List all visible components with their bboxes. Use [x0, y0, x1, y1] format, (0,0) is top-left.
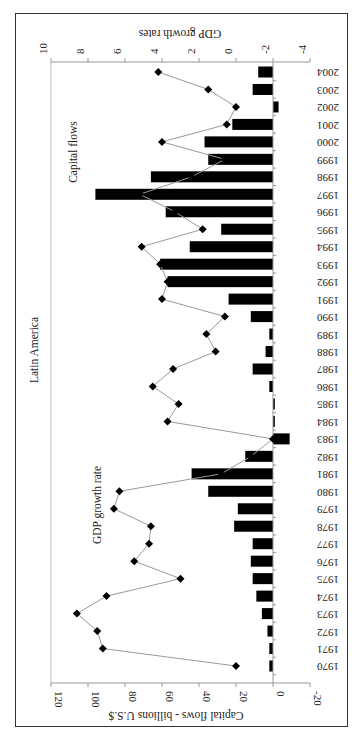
left-axis-tick-label: 100: [90, 691, 102, 708]
year-label: 1985: [317, 399, 340, 411]
capital-flow-bar: [269, 661, 273, 672]
capital-flow-bar: [205, 136, 273, 147]
year-label: 1983: [317, 434, 340, 446]
year-label: 2004: [317, 67, 340, 79]
gdp-diamond-marker: [103, 592, 111, 600]
capital-flow-bar: [269, 329, 273, 340]
gdp-diamond-marker: [223, 120, 231, 128]
gdp-diamond-marker: [158, 295, 166, 303]
year-label: 1971: [317, 644, 339, 656]
year-label: 1978: [317, 522, 340, 534]
annotation-gdp-growth: GDP growth rate: [91, 466, 104, 544]
year-label: 1977: [317, 539, 340, 551]
left-axis-title: Capital flows - billions U.S.$: [108, 709, 243, 722]
year-label: 1991: [317, 295, 339, 307]
right-axis-title: GDP growth rates: [138, 27, 221, 40]
year-label: 1986: [317, 382, 340, 394]
capital-flow-bar: [232, 119, 273, 130]
right-axis-tick-label: 4: [148, 48, 160, 54]
year-label: 1998: [317, 172, 340, 184]
year-label: 1996: [317, 207, 340, 219]
year-label: 1972: [317, 627, 339, 639]
capital-flow-bar: [95, 189, 273, 200]
capital-flow-bar: [273, 101, 279, 112]
left-axis-tick-label: 60: [164, 691, 176, 703]
right-axis-tick-label: 10: [37, 43, 49, 55]
capital-flow-bar: [269, 381, 273, 392]
capital-flow-bar: [168, 276, 273, 287]
capital-flow-bar: [221, 224, 273, 235]
capital-flow-bar: [234, 521, 273, 532]
left-axis-tick-label: 120: [53, 691, 65, 708]
capital-flow-bar: [192, 468, 273, 479]
tick-labels: 120100806040200-201086420-2-419701971197…: [37, 43, 339, 709]
year-label: 1979: [317, 504, 340, 516]
gdp-diamond-marker: [204, 85, 212, 93]
year-label: 2001: [317, 120, 339, 132]
capital-flow-bar: [238, 503, 273, 514]
capital-flow-bar: [258, 67, 273, 78]
year-label: 1994: [317, 242, 340, 254]
capital-flows-bars: [95, 67, 289, 672]
capital-flow-bar: [160, 259, 273, 270]
right-axis-tick-label: 6: [111, 48, 123, 54]
year-label: 2000: [317, 137, 340, 149]
gdp-diamond-marker: [99, 645, 107, 653]
gdp-diamond-marker: [154, 68, 162, 76]
capital-flow-bar: [251, 556, 273, 567]
left-axis-tick-label: 80: [127, 691, 139, 703]
year-label: 1980: [317, 487, 340, 499]
gdp-diamond-marker: [158, 138, 166, 146]
gdp-diamond-marker: [175, 400, 183, 408]
right-axis-tick-label: 8: [74, 48, 86, 54]
capital-flow-bar: [253, 84, 273, 95]
gdp-diamond-marker: [115, 487, 123, 495]
year-label: 1992: [317, 277, 339, 289]
year-label: 2003: [317, 85, 340, 97]
chart-canvas: 120100806040200-201086420-2-419701971197…: [0, 0, 357, 731]
gdp-diamond-marker: [110, 505, 118, 513]
left-axis-tick-label: -20: [312, 691, 324, 706]
year-label: 1973: [317, 609, 340, 621]
year-label: 1987: [317, 364, 340, 376]
year-label: 1976: [317, 557, 340, 569]
capital-flow-bar: [267, 626, 273, 637]
chart-title: Latin America: [28, 317, 40, 383]
year-label: 1982: [317, 452, 339, 464]
right-axis-tick-label: 0: [222, 48, 234, 54]
year-label: 1999: [317, 155, 340, 167]
gdp-diamond-marker: [147, 522, 155, 530]
right-axis-tick-label: -2: [259, 45, 271, 54]
year-label: 1997: [317, 190, 340, 202]
capital-flow-bar: [208, 486, 273, 497]
left-axis-tick-label: 0: [275, 691, 287, 697]
gdp-diamond-marker: [212, 348, 220, 356]
year-label: 1970: [317, 661, 340, 673]
capital-flow-bar: [253, 364, 273, 375]
capital-flow-bar: [253, 573, 273, 584]
gdp-diamond-marker: [232, 103, 240, 111]
right-axis-tick-label: 2: [185, 49, 197, 55]
capital-flow-bar: [253, 538, 273, 549]
left-axis-tick-label: 40: [201, 691, 213, 703]
left-axis-tick-label: 20: [238, 691, 250, 703]
year-label: 1993: [317, 260, 340, 272]
year-label: 1989: [317, 330, 340, 342]
capital-flow-bar: [190, 241, 273, 252]
capital-flow-bar: [256, 591, 273, 602]
gdp-diamond-marker: [177, 575, 185, 583]
year-label: 1974: [317, 592, 340, 604]
year-label: 1984: [317, 417, 340, 429]
gdp-diamond-marker: [232, 662, 240, 670]
capital-flow-bar: [269, 643, 273, 654]
capital-flow-bar: [262, 608, 273, 619]
capital-flow-bar: [251, 311, 273, 322]
annotation-capital-flows: Capital flows: [67, 121, 80, 183]
year-label: 1995: [317, 225, 340, 237]
year-label: 1981: [317, 469, 339, 481]
capital-flow-bar: [266, 346, 273, 357]
year-label: 1988: [317, 347, 340, 359]
gdp-diamond-marker: [199, 225, 207, 233]
right-axis-tick-label: -4: [296, 44, 308, 54]
gdp-diamond-marker: [164, 417, 172, 425]
